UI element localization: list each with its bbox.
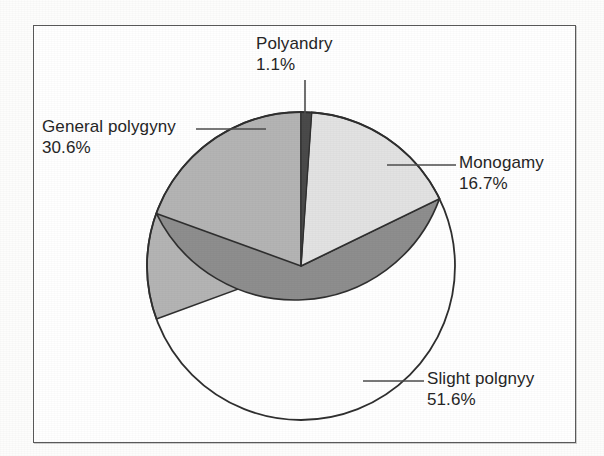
slice-label-general-polygyny-percent: 30.6% — [42, 137, 176, 158]
slice-label-polyandry-name: Polyandry — [256, 34, 333, 53]
slice-label-monogamy-percent: 16.7% — [459, 173, 544, 194]
slice-label-slight-polygyny: Slight polgnyy 51.6% — [427, 368, 534, 410]
pie-chart-figure: Polyandry 1.1% General polygyny 30.6% Mo… — [0, 0, 604, 456]
slice-label-slight-polygyny-percent: 51.6% — [427, 389, 534, 410]
slice-label-polyandry: Polyandry 1.1% — [256, 33, 333, 75]
slice-label-monogamy: Monogamy 16.7% — [459, 152, 544, 194]
slice-label-monogamy-name: Monogamy — [459, 153, 544, 172]
slice-label-polyandry-percent: 1.1% — [256, 54, 333, 75]
slice-label-general-polygyny: General polygyny 30.6% — [42, 116, 176, 158]
slice-label-general-polygyny-name: General polygyny — [42, 117, 176, 136]
slice-label-slight-polygyny-name: Slight polgnyy — [427, 369, 534, 388]
